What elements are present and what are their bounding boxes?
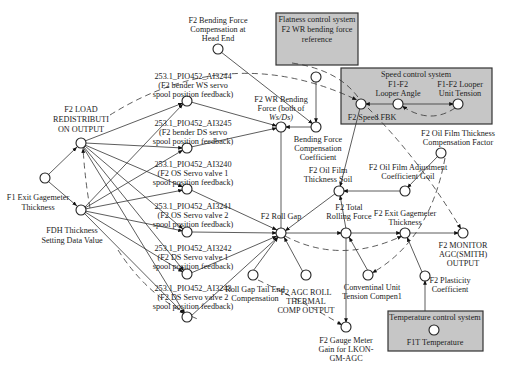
svg-text:Roll Gap Tail End: Roll Gap Tail End xyxy=(225,285,285,294)
svg-text:spool position feedback): spool position feedback) xyxy=(153,90,234,99)
node-speed-fbk[interactable] xyxy=(356,99,366,109)
svg-text:F2 Exit Gagemeter: F2 Exit Gagemeter xyxy=(374,209,437,218)
svg-text:Setting Data Value: Setting Data Value xyxy=(41,236,103,245)
svg-text:Compensation at: Compensation at xyxy=(190,25,246,34)
svg-text:Compensation: Compensation xyxy=(231,294,278,303)
svg-text:F2 LOAD: F2 LOAD xyxy=(64,105,98,114)
node-roll-gap[interactable] xyxy=(276,228,286,238)
svg-text:spool position feedback): spool position feedback) xyxy=(153,178,234,187)
svg-text:(F2 bender DS servo: (F2 bender DS servo xyxy=(159,128,227,137)
svg-text:(F2 bender WS servo: (F2 bender WS servo xyxy=(158,81,228,90)
speed-title: Speed control system xyxy=(381,70,452,79)
svg-text:FDH Thickness: FDH Thickness xyxy=(46,226,97,235)
svg-text:F2 Bending Force: F2 Bending Force xyxy=(188,16,247,25)
svg-text:253.1_PIO452_AI3245: 253.1_PIO452_AI3245 xyxy=(154,119,231,128)
svg-text:AGC(SMITH): AGC(SMITH) xyxy=(439,250,487,259)
svg-text:(F2 OS Servo valve 2: (F2 OS Servo valve 2 xyxy=(158,211,229,220)
node-f1t-temperature[interactable] xyxy=(429,325,439,335)
svg-text:THERMAL: THERMAL xyxy=(286,297,326,306)
causal-diagram: Flatness control system F2 WR bending fo… xyxy=(0,0,505,370)
svg-text:F1 Exit Gagemeter: F1 Exit Gagemeter xyxy=(7,193,70,202)
node-gauge-meter[interactable] xyxy=(341,322,351,332)
svg-text:F2 WR Bending: F2 WR Bending xyxy=(254,95,308,104)
svg-text:Unit Tension: Unit Tension xyxy=(439,89,481,98)
node-tail-end[interactable] xyxy=(248,270,258,280)
svg-text:Gain for LKON-: Gain for LKON- xyxy=(318,345,373,354)
svg-text:Coefficient Goil: Coefficient Goil xyxy=(381,172,435,181)
svg-text:REDISTRIBUTI: REDISTRIBUTI xyxy=(53,115,109,124)
svg-text:ON OUTPUT: ON OUTPUT xyxy=(58,125,104,134)
node-monitor[interactable] xyxy=(458,228,468,238)
node-load-redist[interactable] xyxy=(76,138,86,148)
svg-text:Thickness: Thickness xyxy=(388,218,421,227)
svg-text:Compensation: Compensation xyxy=(294,144,341,153)
node-oil-factor[interactable] xyxy=(436,148,446,158)
node-conv-tension[interactable] xyxy=(363,270,373,280)
svg-text:Bending Force: Bending Force xyxy=(294,135,343,144)
svg-text:F2 Plasticity: F2 Plasticity xyxy=(429,276,471,285)
flatness-title: Flatness control system xyxy=(279,15,356,24)
svg-text:F1-F2: F1-F2 xyxy=(388,80,408,89)
svg-text:GM-AGC: GM-AGC xyxy=(329,354,363,363)
node-total-force[interactable] xyxy=(341,228,351,238)
svg-text:(F2 DS Servo valve 2: (F2 DS Servo valve 2 xyxy=(158,293,229,302)
node-thermal[interactable] xyxy=(301,270,311,280)
svg-text:Thickness Soil: Thickness Soil xyxy=(304,175,353,184)
node-oil-soil[interactable] xyxy=(334,186,344,196)
svg-text:F2 Roll Gap: F2 Roll Gap xyxy=(261,212,302,221)
flatness-line3: reference xyxy=(302,35,333,44)
node-bend-coef[interactable] xyxy=(311,122,321,132)
node-f2-exit[interactable] xyxy=(400,228,410,238)
svg-text:spool position feedback): spool position feedback) xyxy=(153,137,234,146)
svg-text:F2 Gauge Meter: F2 Gauge Meter xyxy=(319,336,373,345)
svg-text:Coefficient: Coefficient xyxy=(300,153,337,162)
node-looper-angle[interactable] xyxy=(393,99,403,109)
svg-text:(F2 OS Servo valve 1: (F2 OS Servo valve 1 xyxy=(158,169,229,178)
svg-text:253.1_PIO452_AI3244: 253.1_PIO452_AI3244 xyxy=(154,72,231,81)
svg-text:Coefficient: Coefficient xyxy=(432,285,469,294)
svg-text:Conventinal Unit: Conventinal Unit xyxy=(344,283,401,292)
temperature-title: Temperature control system xyxy=(389,313,481,322)
node-fdh[interactable] xyxy=(76,205,86,215)
svg-text:OUTPUT: OUTPUT xyxy=(447,259,479,268)
svg-text:F1-F2 Looper: F1-F2 Looper xyxy=(437,80,483,89)
svg-text:F2 AGC ROLL: F2 AGC ROLL xyxy=(281,288,332,297)
svg-text:F2 MONITOR: F2 MONITOR xyxy=(439,241,488,250)
svg-text:F2 Speed FBK: F2 Speed FBK xyxy=(348,113,397,122)
svg-text:F2 Total: F2 Total xyxy=(335,203,363,212)
svg-text:Compensation Factor: Compensation Factor xyxy=(423,138,494,147)
node-looper-tension[interactable] xyxy=(453,99,463,109)
node-bend-head[interactable] xyxy=(213,44,223,54)
svg-text:F2 Oil Film Thickness: F2 Oil Film Thickness xyxy=(421,129,495,138)
svg-text:Looper Angle: Looper Angle xyxy=(375,89,421,98)
node-ai3243[interactable] xyxy=(182,312,192,322)
node-flatness-ref[interactable] xyxy=(311,72,321,82)
svg-text:Force (both of: Force (both of xyxy=(258,104,305,113)
svg-text:Ws/Ds): Ws/Ds) xyxy=(269,113,293,122)
svg-text:253.1_PIO452_AI3242: 253.1_PIO452_AI3242 xyxy=(154,244,231,253)
svg-text:253.1_PIO452_AI3241: 253.1_PIO452_AI3241 xyxy=(154,202,231,211)
svg-text:F2 Oil Film Adjustment: F2 Oil Film Adjustment xyxy=(369,163,448,172)
svg-text:Tension Compen1: Tension Compen1 xyxy=(342,292,402,301)
svg-text:253.1_PIO452_AI3243: 253.1_PIO452_AI3243 xyxy=(154,284,231,293)
svg-text:253.1_PIO452_AI3240: 253.1_PIO452_AI3240 xyxy=(154,160,231,169)
f1t-temperature-label: F1T Temperature xyxy=(407,338,464,347)
svg-text:F2 Oil Film: F2 Oil Film xyxy=(309,166,348,175)
svg-text:spool position feedback): spool position feedback) xyxy=(153,220,234,229)
svg-text:COMP OUTPUT: COMP OUTPUT xyxy=(277,306,334,315)
svg-text:Rolling Force: Rolling Force xyxy=(326,212,372,221)
svg-text:(F2 DS Servo valve 1: (F2 DS Servo valve 1 xyxy=(158,253,229,262)
node-wr-bend[interactable] xyxy=(276,122,286,132)
svg-text:spool position feedback): spool position feedback) xyxy=(153,262,234,271)
svg-text:spool position feedback): spool position feedback) xyxy=(153,302,234,311)
node-f1-exit[interactable] xyxy=(40,173,50,183)
node-oil-goil[interactable] xyxy=(400,186,410,196)
svg-text:Thickness: Thickness xyxy=(21,203,54,212)
svg-text:Head End: Head End xyxy=(202,34,235,43)
flatness-line2: F2 WR bending force xyxy=(281,25,352,34)
